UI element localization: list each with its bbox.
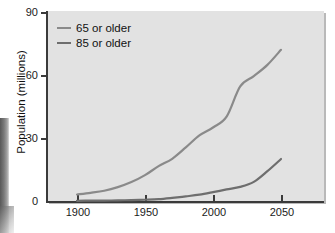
series-line-85-or-older (77, 159, 281, 201)
y-tick-label-30: 30 (26, 133, 38, 144)
series-line-65-or-older (77, 50, 281, 195)
legend-swatch-icon-85 (57, 42, 71, 44)
scan-corner-artifact (0, 206, 14, 233)
x-tick-label-1900: 1900 (56, 206, 100, 218)
legend-item-65-or-older: 65 or older (57, 21, 131, 35)
chart-legend: 65 or older 85 or older (57, 21, 131, 51)
x-tick-label-1950: 1950 (124, 206, 168, 218)
legend-label-85: 85 or older (76, 37, 131, 50)
legend-label-65: 65 or older (76, 22, 131, 35)
y-axis-title: Population (millions) (15, 27, 27, 177)
legend-swatch-icon-65 (57, 27, 71, 29)
population-aging-line-chart: 90 60 30 0 1900 1950 2000 2050 Populatio… (0, 0, 335, 233)
x-tick-label-2050: 2050 (260, 206, 304, 218)
x-tick-label-2000: 2000 (192, 206, 236, 218)
y-tick-label-0: 0 (32, 196, 38, 207)
y-tick-label-90: 90 (26, 7, 38, 18)
y-tick-label-60: 60 (26, 70, 38, 81)
legend-item-85-or-older: 85 or older (57, 36, 131, 50)
